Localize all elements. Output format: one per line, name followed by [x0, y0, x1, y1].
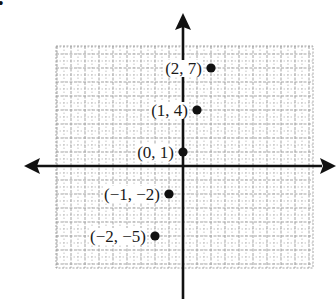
point-label: (−1, −2)	[104, 185, 160, 204]
corner-mark: •	[0, 0, 4, 12]
point-marker	[178, 147, 187, 156]
point-label: (2, 7)	[165, 59, 202, 78]
x-axis-right-arrow-icon	[320, 158, 336, 174]
point-marker	[164, 189, 173, 198]
point-label: (−2, −5)	[90, 227, 146, 246]
point-label: (1, 4)	[151, 101, 188, 120]
data-point: (−2, −5)	[89, 227, 160, 246]
point-marker	[150, 231, 159, 240]
coordinate-plane: • (2, 7)(1, 4)(0, 1)(−1, −2)(−2, −5)	[0, 0, 336, 299]
point-marker	[206, 63, 215, 72]
point-marker	[192, 105, 201, 114]
point-label: (0, 1)	[137, 143, 174, 162]
data-point: (−1, −2)	[103, 185, 174, 204]
